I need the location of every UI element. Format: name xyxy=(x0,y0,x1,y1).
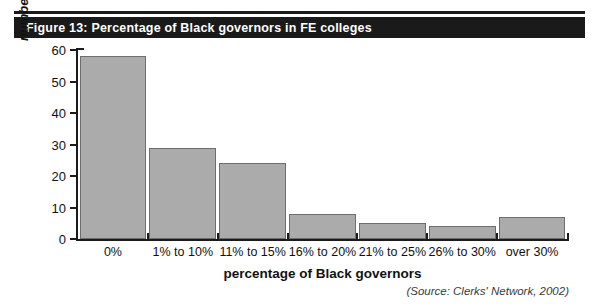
x-axis-line xyxy=(76,239,569,241)
y-axis-tick xyxy=(70,112,78,114)
x-axis-tick xyxy=(147,233,149,241)
bar-16-to-20- xyxy=(289,214,356,239)
x-axis-tick-label: 0% xyxy=(104,245,122,259)
y-axis-tick-label: 60 xyxy=(52,44,66,57)
x-axis-tick xyxy=(217,233,219,241)
x-axis-tick-label: 1% to 10% xyxy=(153,245,213,259)
x-axis-right-cap xyxy=(567,233,569,241)
y-axis-tick-label: 30 xyxy=(52,138,66,151)
bar-0- xyxy=(80,56,147,239)
bar-21-to-25- xyxy=(359,223,426,239)
plot-area xyxy=(78,50,567,239)
x-axis-tick-label: over 30% xyxy=(506,245,559,259)
y-axis-tick-label: 0 xyxy=(59,233,66,246)
bar-over-30- xyxy=(499,217,566,239)
y-axis-tick-label: 40 xyxy=(52,107,66,120)
bar-11-to-15- xyxy=(219,163,286,239)
bar-26-to-30- xyxy=(429,226,496,239)
y-axis-tick xyxy=(70,49,78,51)
y-axis-tick-label: 50 xyxy=(52,75,66,88)
figure-title-band: Figure 13: Percentage of Black governors… xyxy=(14,17,585,38)
figure-title: Figure 13: Percentage of Black governors… xyxy=(26,21,372,35)
y-axis-title: number of colleges xyxy=(10,0,36,76)
y-axis-tick xyxy=(70,175,78,177)
y-axis-tick xyxy=(70,207,78,209)
x-axis-tick xyxy=(496,233,498,241)
bar-1-to-10- xyxy=(149,148,216,239)
x-axis-tick-label: 26% to 30% xyxy=(428,245,495,259)
y-axis-tick xyxy=(70,144,78,146)
x-axis-tick xyxy=(426,233,428,241)
figure-container: Figure 13: Percentage of Black governors… xyxy=(0,0,597,306)
x-axis-title: percentage of Black governors xyxy=(78,266,567,281)
y-axis-tick xyxy=(70,81,78,83)
x-axis-tick-label: 16% to 20% xyxy=(289,245,356,259)
source-note: (Source: Clerks' Network, 2002) xyxy=(406,285,569,297)
y-axis-tick-label: 20 xyxy=(52,170,66,183)
x-axis-tick xyxy=(287,233,289,241)
top-rule xyxy=(14,11,585,14)
x-axis-tick-label: 11% to 15% xyxy=(219,245,285,259)
y-axis-tick-label: 10 xyxy=(52,201,66,214)
x-axis-tick xyxy=(356,233,358,241)
x-axis-tick-label: 21% to 25% xyxy=(359,245,426,259)
y-axis-tick xyxy=(70,238,78,240)
